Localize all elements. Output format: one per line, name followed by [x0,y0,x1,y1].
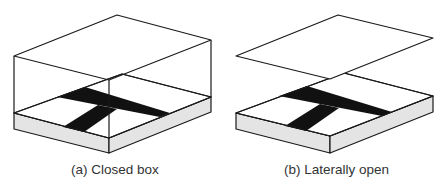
caption-closed-box: (a) Closed box [71,162,159,177]
panel-a-closed-box [14,15,211,153]
caption-laterally-open: (b) Laterally open [284,162,389,177]
panel-a-lid [14,15,211,80]
panel-b-lid [236,15,433,79]
panel-b-laterally-open [236,15,433,153]
figure-canvas [0,0,447,187]
